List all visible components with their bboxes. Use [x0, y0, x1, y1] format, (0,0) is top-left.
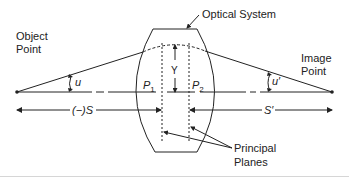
image-point-label-line1: Image [301, 52, 332, 65]
s-object-label: (−)S [72, 104, 93, 117]
bottom-divider [0, 176, 349, 177]
optical-system-label: Optical System [202, 8, 276, 21]
ray-extension-dashed [143, 45, 205, 52]
p1-label: P1 [143, 79, 155, 96]
p2-label: P2 [192, 79, 204, 96]
angle-u-label: u [75, 76, 81, 89]
object-point-label-line2: Point [16, 43, 41, 56]
principal-planes-leader-1 [164, 132, 232, 148]
optical-system-leader [187, 15, 199, 28]
optics-diagram [0, 0, 349, 179]
image-point-label-line2: Point [301, 65, 326, 78]
principal-planes-leader-2 [191, 127, 232, 148]
angle-u-prime-label: u′ [272, 75, 280, 88]
principal-planes-label-line1: Principal [234, 142, 276, 155]
y-height-label: Y [171, 64, 178, 77]
s-image-label: S′ [264, 104, 273, 117]
object-point-label-line1: Object [16, 30, 48, 43]
principal-planes-label-line2: Planes [234, 156, 268, 169]
